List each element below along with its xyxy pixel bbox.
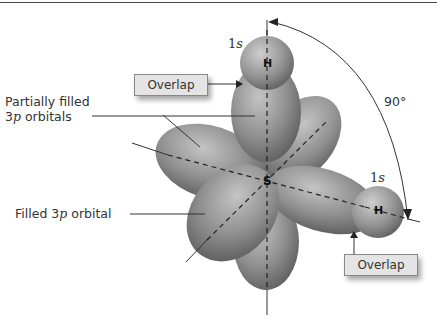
- label-partially-filled-line1: Partially filled: [5, 94, 90, 109]
- atom-sulfur: S: [263, 174, 272, 188]
- label-filled-prefix: Filled 3: [15, 206, 59, 221]
- x-axis-right-ext: [412, 220, 420, 222]
- angle-arrow-top: [268, 18, 278, 26]
- label-num: 3: [5, 109, 13, 124]
- atom-hydrogen-right: H: [374, 204, 383, 217]
- label-filled-orbital: Filled 3p orbital: [15, 206, 111, 221]
- atom-hydrogen-top: H: [263, 57, 272, 70]
- h-right-1s-letter: s: [378, 170, 385, 185]
- callout-overlap-top: Overlap: [134, 74, 208, 96]
- label-angle: 90°: [384, 94, 406, 109]
- label-partially-filled-line2: 3p orbitals: [5, 109, 90, 124]
- orbital-diagram: [0, 0, 437, 325]
- label-partially-filled: Partially filled 3p orbitals: [5, 94, 90, 124]
- label-suffix: orbitals: [21, 109, 72, 124]
- label-h-top-1s: 1s: [228, 36, 243, 51]
- callout-overlap-right: Overlap: [344, 254, 418, 276]
- h-top-1s-letter: s: [236, 36, 243, 51]
- label-h-right-1s: 1s: [370, 170, 385, 185]
- label-italic-p: p: [13, 109, 21, 124]
- label-filled-suffix: orbital: [67, 206, 111, 221]
